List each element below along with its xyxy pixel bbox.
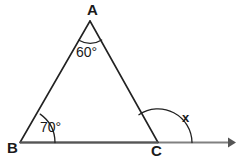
angle-arc-a: [79, 40, 102, 43]
arrowhead-icon: [228, 138, 236, 148]
angle-label-a: 60°: [76, 45, 97, 59]
vertex-label-a: A: [87, 2, 98, 17]
angle-label-x: x: [182, 111, 189, 124]
figure-drawing: [0, 0, 239, 165]
vertex-label-c: C: [151, 143, 162, 158]
vertex-label-b: B: [7, 140, 18, 155]
geometry-figure: A B C 60° 70° x: [0, 0, 239, 165]
angle-label-b: 70°: [40, 120, 61, 134]
side-ac: [90, 21, 158, 143]
